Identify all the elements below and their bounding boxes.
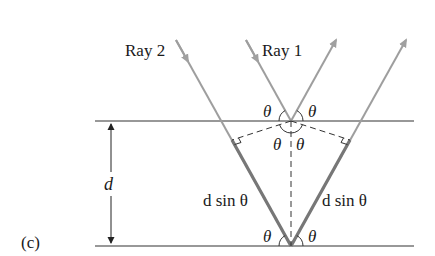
theta-upper-right: θ — [308, 102, 316, 121]
bragg-diffraction-diagram: Ray 2 Ray 1 θ θ θ θ θ θ d d sin θ d sin … — [0, 0, 435, 256]
theta-inner-right: θ — [296, 135, 304, 154]
ray-1-label: Ray 1 — [262, 41, 302, 60]
theta-lower-left: θ — [263, 227, 271, 246]
theta-inner-left: θ — [273, 135, 281, 154]
construction-lines — [232, 121, 350, 246]
theta-lower-right: θ — [308, 227, 316, 246]
theta-upper-left: θ — [263, 102, 271, 121]
spacing-label: d — [104, 174, 114, 194]
path-difference-left: d sin θ — [203, 191, 248, 210]
panel-label: (c) — [21, 233, 40, 252]
path-difference-right: d sin θ — [322, 191, 367, 210]
ray-2-label: Ray 2 — [125, 41, 165, 60]
